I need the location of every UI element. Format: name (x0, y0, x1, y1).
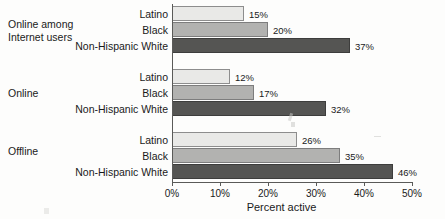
bar-latino-online (172, 69, 230, 84)
category-label: Latino (139, 8, 168, 20)
x-axis-line (172, 182, 413, 183)
x-tick-label-30: 30% (306, 188, 326, 199)
x-tick (220, 182, 221, 186)
x-tick-label-10: 10% (210, 188, 230, 199)
bar-value-label: 20% (273, 24, 292, 35)
group-label-online: Online (8, 87, 38, 100)
bar-black-online-among-internet-users (172, 22, 268, 37)
bar-value-label: 32% (331, 103, 350, 114)
x-tick (172, 182, 173, 186)
bar-black-offline (172, 148, 340, 163)
x-tick-label-0: 0% (165, 188, 179, 199)
x-tick-label-50: 50% (402, 188, 422, 199)
x-tick (268, 182, 269, 186)
bar-value-label: 26% (302, 134, 321, 145)
bar-latino-online-among-internet-users (172, 6, 244, 21)
bar-chart: Online among Internet users Online Offli… (0, 0, 445, 219)
x-tick (412, 182, 413, 186)
category-label: Black (142, 87, 168, 99)
bar-black-online (172, 85, 254, 100)
category-label: Non-Hispanic White (75, 166, 168, 178)
group-label-online-among-internet-users: Online among Internet users (8, 18, 73, 43)
x-axis-title: Percent active (247, 201, 317, 213)
bar-non-hispanic-white-online (172, 101, 326, 116)
bar-value-label: 35% (345, 150, 364, 161)
bar-value-label: 15% (249, 8, 268, 19)
category-label: Non-Hispanic White (75, 40, 168, 52)
x-tick-label-20: 20% (258, 188, 278, 199)
category-label: Latino (139, 71, 168, 83)
bar-value-label: 37% (355, 40, 374, 51)
bar-non-hispanic-white-online-among-internet-users (172, 38, 350, 53)
plot-area: Latino 15% Black 20% Non-Hispanic White … (172, 0, 413, 182)
group-label-offline: Offline (8, 145, 38, 158)
category-label: Black (142, 150, 168, 162)
x-tick-label-40: 40% (354, 188, 374, 199)
bar-non-hispanic-white-offline (172, 164, 393, 179)
x-axis-title-wrap: Percent active (0, 201, 445, 213)
bar-value-label: 46% (398, 166, 417, 177)
x-tick (364, 182, 365, 186)
bar-value-label: 17% (259, 87, 278, 98)
bar-value-label: 12% (235, 71, 254, 82)
y-axis-line (172, 4, 173, 182)
bar-latino-offline (172, 132, 297, 147)
category-label: Black (142, 24, 168, 36)
category-label: Non-Hispanic White (75, 103, 168, 115)
x-tick (316, 182, 317, 186)
category-label: Latino (139, 134, 168, 146)
